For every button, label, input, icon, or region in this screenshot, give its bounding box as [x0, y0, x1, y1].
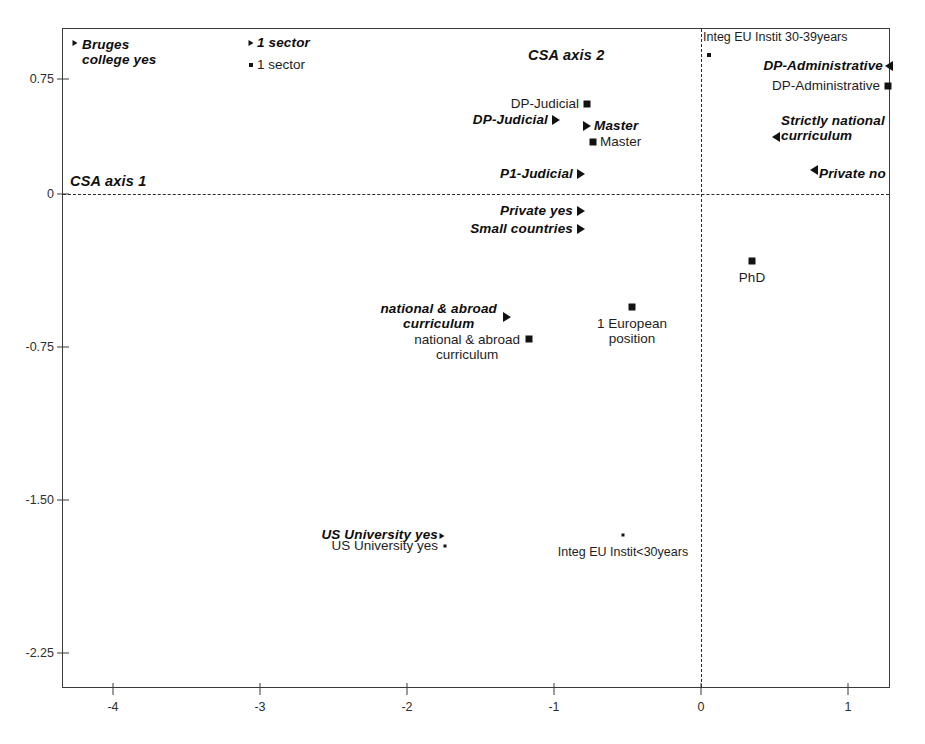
x-tick-label-minus3: -3 — [254, 689, 265, 714]
point-label-small-countries: Small countries — [470, 221, 573, 236]
point-label-private-yes: Private yes — [500, 203, 573, 218]
y-tick-label-minus075: -0.75 — [26, 340, 64, 354]
triangle-right-icon — [577, 169, 585, 179]
x-tick-label-minus2: -2 — [401, 689, 412, 714]
point-label-1-sector-supp: 1 sector — [257, 35, 310, 50]
point-label-us-university-yes: US University yes — [331, 538, 438, 553]
square-marker-icon — [444, 545, 447, 548]
point-label-dp-administrative-supp: DP-Administrative — [763, 58, 883, 73]
square-marker-icon — [629, 304, 636, 311]
triangle-right-icon — [503, 312, 511, 322]
point-label-private-no: Private no — [819, 166, 886, 181]
point-label-integ-eu-instit-30-39years: Integ EU Instit 30-39years — [703, 30, 848, 44]
point-label-national-abroad-curriculum-supp: national & abroad curriculum — [380, 301, 497, 331]
point-label-1-european-position: 1 European position — [597, 316, 667, 346]
point-label-master: Master — [600, 134, 641, 149]
point-label-phd: PhD — [739, 270, 765, 285]
triangle-right-icon — [577, 224, 585, 234]
triangle-right-icon — [73, 40, 78, 46]
point-label-master-supp: Master — [594, 118, 638, 133]
square-marker-icon — [526, 336, 533, 343]
square-marker-icon — [584, 101, 591, 108]
y-tick-label-minus150: -1.50 — [26, 493, 64, 507]
y-tick-label-0: 0 — [47, 187, 63, 201]
square-marker-icon — [749, 258, 756, 265]
y-tick-label-minus225: -2.25 — [26, 646, 64, 660]
zero-line-horizontal — [63, 194, 889, 195]
plot-area: 0.75 0 -0.75 -1.50 -2.25 -3.00 -4 — [62, 28, 890, 688]
x-tick-label-0: 0 — [698, 689, 705, 714]
point-label-p1-judicial: P1-Judicial — [500, 166, 573, 181]
triangle-right-icon — [440, 533, 445, 539]
triangle-left-icon — [885, 61, 893, 71]
zero-line-vertical — [701, 29, 702, 687]
square-marker-icon — [590, 139, 597, 146]
axis-title-csa-axis-2: CSA axis 2 — [528, 47, 604, 63]
x-tick-label-1: 1 — [845, 689, 852, 714]
y-tick-label-075: 0.75 — [30, 72, 63, 86]
point-label-dp-judicial: DP-Judicial — [511, 96, 579, 111]
triangle-right-icon — [249, 40, 254, 46]
point-label-1-sector: 1 sector — [257, 57, 305, 72]
triangle-right-icon — [577, 206, 585, 216]
triangle-left-icon — [810, 165, 818, 175]
square-marker-icon — [707, 53, 711, 57]
square-marker-icon — [249, 63, 253, 67]
point-label-strictly-national-curriculum: Strictly national curriculum — [781, 113, 885, 143]
triangle-right-icon — [552, 115, 560, 125]
point-label-national-abroad-curriculum: national & abroad curriculum — [414, 332, 520, 362]
point-label-dp-administrative: DP-Administrative — [772, 78, 880, 93]
square-marker-icon — [885, 83, 892, 90]
x-tick-label-minus1: -1 — [548, 689, 559, 714]
x-tick-label-minus4: -4 — [107, 689, 118, 714]
point-label-dp-judicial-supp: DP-Judicial — [473, 112, 548, 127]
point-label-integ-eu-instit-lt30years: Integ EU Instit<30years — [558, 545, 688, 559]
square-marker-icon — [622, 534, 625, 537]
axis-title-csa-axis-1: CSA axis 1 — [70, 173, 146, 189]
triangle-left-icon — [772, 132, 780, 142]
triangle-right-icon — [583, 121, 591, 131]
point-label-bruges-college-yes: Bruges college yes — [82, 37, 156, 67]
scatter-plot-figure: 0.75 0 -0.75 -1.50 -2.25 -3.00 -4 — [0, 0, 925, 744]
